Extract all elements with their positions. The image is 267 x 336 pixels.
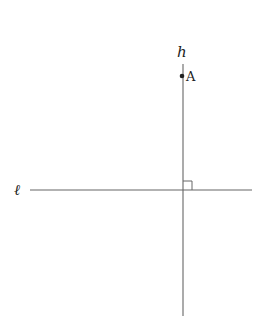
label-a: A <box>185 69 196 84</box>
label-h: h <box>177 43 187 61</box>
right-angle-marker <box>183 181 192 190</box>
label-l: ℓ <box>14 181 20 199</box>
perpendicular-lines-diagram: h A ℓ <box>0 0 267 336</box>
point-a <box>180 74 185 79</box>
